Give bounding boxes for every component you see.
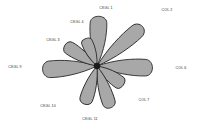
petal-label-ckgl-11: CKGL 11 bbox=[82, 118, 97, 122]
petal-label-col-7: COL 7 bbox=[138, 99, 149, 103]
center-marker bbox=[94, 63, 100, 69]
petal-label-col-6: COL 6 bbox=[175, 67, 186, 71]
petal-label-ckgl-10: CKGL 10 bbox=[40, 105, 56, 109]
petal-diagram-figure: CKGL 1COL 2COL 6COL 7CKGL 11CKGL 10CKGL … bbox=[0, 0, 199, 129]
petal-label-col-2: COL 2 bbox=[161, 9, 172, 13]
petal-label-ckgl-1: CKGL 1 bbox=[99, 7, 113, 11]
petal-label-ckgl-9: CKGL 9 bbox=[8, 66, 22, 70]
petal-label-ckgl-4: CKGL 4 bbox=[70, 21, 84, 25]
petal-svg bbox=[0, 0, 199, 129]
petal-label-ckgl-3: CKGL 3 bbox=[46, 39, 60, 43]
